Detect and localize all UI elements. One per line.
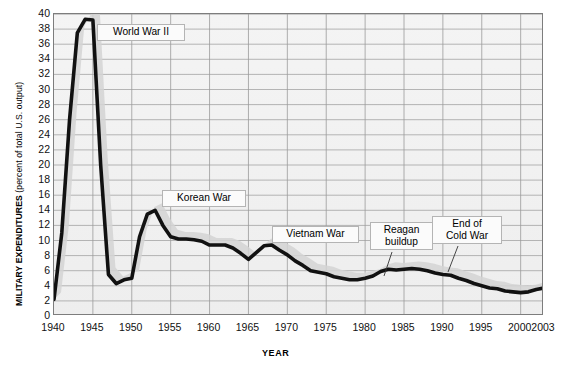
x-tick-label: 1975 — [314, 321, 337, 333]
annotation-line: buildup — [375, 236, 428, 248]
y-tick-label: 34 — [28, 53, 50, 63]
x-tick-label: 1980 — [352, 321, 375, 333]
y-tick-label: 16 — [28, 189, 50, 199]
x-tick-label: 1950 — [119, 321, 142, 333]
y-tick-label: 18 — [28, 174, 50, 184]
y-tick-label: 2 — [28, 295, 50, 305]
annotation-line: Cold War — [437, 230, 497, 242]
y-axis-ticks: 0246810121416182022242628303234363840 — [24, 0, 50, 369]
x-tick-label: 1990 — [430, 321, 453, 333]
plot-svg — [54, 14, 543, 315]
plot-area — [53, 13, 543, 315]
y-tick-label: 32 — [28, 68, 50, 78]
y-axis-label-main: MILITARY EXPENDITURES — [14, 195, 24, 306]
y-tick-label: 12 — [28, 219, 50, 229]
y-tick-label: 38 — [28, 23, 50, 33]
annotation-korean-war: Korean War — [162, 190, 246, 207]
x-tick-label: 1960 — [197, 321, 220, 333]
y-tick-label: 26 — [28, 114, 50, 124]
annotation-line: World War II — [102, 26, 180, 38]
x-tick-label: 1995 — [469, 321, 492, 333]
x-tick-label: 1985 — [391, 321, 414, 333]
annotation-line: Reagan — [375, 224, 428, 236]
x-tick-label: 1955 — [158, 321, 181, 333]
y-tick-label: 40 — [28, 8, 50, 18]
annotation-reagan-buildup: Reaganbuildup — [370, 222, 433, 250]
y-axis-label: MILITARY EXPENDITURES (percent of total … — [14, 82, 24, 306]
annotation-line: End of — [437, 218, 497, 230]
x-tick-label: 1945 — [80, 321, 103, 333]
y-axis-label-sub: (percent of total U.S. output) — [14, 82, 24, 193]
x-tick-label: 2003 — [531, 321, 554, 333]
annotation-end-of-cold-war: End ofCold War — [432, 216, 502, 244]
annotation-line: Korean War — [167, 192, 241, 204]
y-tick-label: 24 — [28, 129, 50, 139]
x-axis-label: YEAR — [262, 348, 289, 358]
y-tick-label: 6 — [28, 265, 50, 275]
y-tick-label: 28 — [28, 99, 50, 109]
y-tick-label: 0 — [28, 310, 50, 320]
y-tick-label: 4 — [28, 280, 50, 290]
y-tick-label: 20 — [28, 159, 50, 169]
x-tick-label: 1965 — [236, 321, 259, 333]
x-tick-label: 1970 — [275, 321, 298, 333]
y-tick-label: 22 — [28, 144, 50, 154]
chart-root: MILITARY EXPENDITURES (percent of total … — [0, 0, 562, 369]
y-axis-label-container: MILITARY EXPENDITURES (percent of total … — [0, 0, 18, 320]
y-tick-label: 30 — [28, 84, 50, 94]
y-tick-label: 36 — [28, 38, 50, 48]
y-tick-label: 8 — [28, 250, 50, 260]
y-tick-label: 10 — [28, 235, 50, 245]
annotation-line: Vietnam War — [277, 228, 354, 240]
annotation-world-war-ii: World War II — [97, 24, 185, 41]
annotation-vietnam-war: Vietnam War — [272, 226, 359, 243]
x-tick-label: 2000 — [508, 321, 531, 333]
y-tick-label: 14 — [28, 204, 50, 214]
